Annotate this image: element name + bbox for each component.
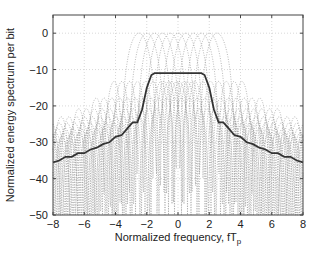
x-tick-label: 4 (237, 218, 243, 230)
x-tick-label: −8 (47, 218, 60, 230)
y-tick-label: −10 (29, 64, 48, 76)
x-tick-label: −4 (109, 218, 122, 230)
x-tick-label: 2 (206, 218, 212, 230)
x-tick-label: −2 (140, 218, 153, 230)
y-tick-labels: 0−10−20−30−40−50 (29, 27, 303, 221)
x-tick-label: −6 (78, 218, 91, 230)
y-tick-label: −30 (29, 136, 48, 148)
x-axis-label: Normalized frequency, fTp (115, 231, 242, 246)
y-tick-label: −40 (29, 173, 48, 185)
y-tick-label: −50 (29, 209, 48, 221)
y-axis-label: Normalized energy spectrum per bit (4, 28, 16, 202)
spectrum-chart: −8−6−4−202468 0−10−20−30−40−50 Normalize… (0, 0, 317, 257)
x-tick-label: 8 (300, 218, 306, 230)
y-tick-label: −20 (29, 100, 48, 112)
x-tick-label: 0 (175, 218, 181, 230)
x-tick-label: 6 (269, 218, 275, 230)
y-tick-label: 0 (42, 27, 48, 39)
